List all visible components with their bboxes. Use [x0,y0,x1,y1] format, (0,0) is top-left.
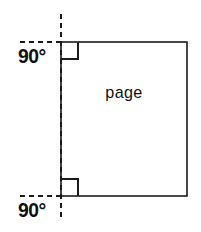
diagram-canvas: 90° 90° page [0,0,201,232]
page-rectangle [61,42,187,196]
page-face-label: page [64,84,184,101]
angle-label-bottom: 90° [18,199,46,220]
angle-label-top: 90° [18,45,46,66]
